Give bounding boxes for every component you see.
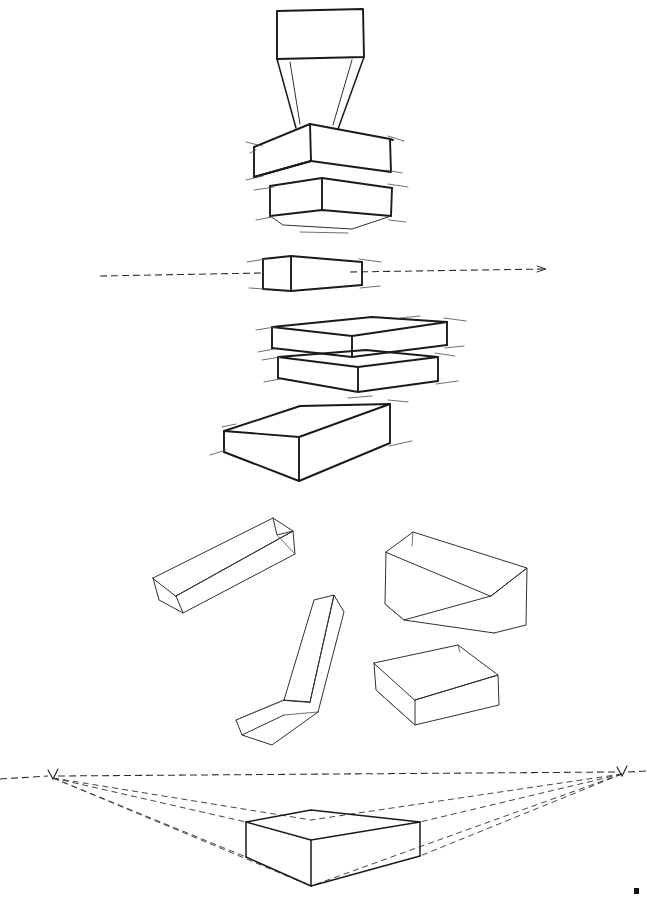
scatter-box-4 — [374, 645, 499, 725]
construction-rays-right — [311, 774, 622, 886]
box-3-at-eye-level — [247, 256, 381, 291]
constructed-box-two-point — [246, 810, 420, 886]
box-2-below-eye-level — [254, 178, 408, 233]
box-top-face — [277, 9, 364, 129]
vanishing-point-left-marker — [48, 769, 58, 779]
box-1-below-eye-level — [246, 124, 404, 180]
horizon-line-upper — [100, 266, 546, 276]
scatter-box-1 — [153, 518, 295, 613]
drawing-sheet — [0, 0, 647, 902]
perspective-study-illustration — [0, 0, 647, 902]
scatter-box-3 — [236, 595, 344, 745]
scatter-box-2 — [385, 532, 527, 633]
horizon-line-lower — [0, 771, 647, 779]
box-6-above-eye-level — [210, 396, 412, 481]
page-corner-mark — [634, 888, 639, 894]
construction-rays-left — [53, 778, 311, 886]
